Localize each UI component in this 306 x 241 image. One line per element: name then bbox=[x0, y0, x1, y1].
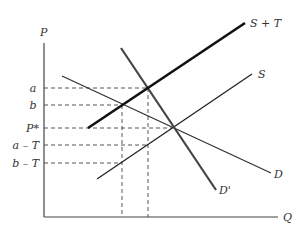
price-label-a: a bbox=[30, 82, 37, 95]
curve-label-s-plus-t: S + T bbox=[250, 17, 283, 30]
tax-incidence-diagram: P Q a b P* a – T b – T S + T S D D' bbox=[0, 0, 306, 241]
price-label-b-minus-t: b – T bbox=[12, 157, 41, 170]
y-axis-label: P bbox=[39, 26, 48, 39]
price-label-p-star: P* bbox=[25, 122, 39, 135]
curve-s-plus-t bbox=[88, 23, 245, 128]
price-label-a-minus-t: a – T bbox=[13, 139, 41, 152]
dashed-guides bbox=[44, 88, 172, 217]
price-label-b: b bbox=[29, 99, 36, 112]
curve-label-s: S bbox=[258, 68, 266, 81]
x-axis-label: Q bbox=[283, 211, 292, 224]
curve-label-d-prime: D' bbox=[218, 184, 231, 197]
curve-d-prime bbox=[121, 48, 216, 190]
curve-label-d: D bbox=[273, 168, 283, 181]
